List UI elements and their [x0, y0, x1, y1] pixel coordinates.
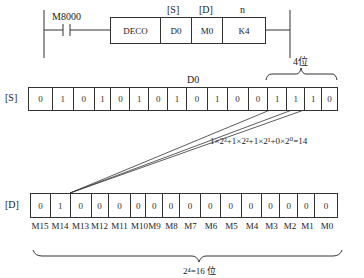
dest-bit-m2: 0 [280, 194, 298, 217]
operand-n-value: K4 [223, 18, 265, 43]
source-bit-10: 1 [130, 88, 149, 110]
sixteen-bit-label: 2⁴=16 位 [183, 265, 216, 277]
operand-d-value: M0 [192, 18, 223, 43]
map-line-3 [70, 110, 304, 193]
source-bit-0: 0 [322, 88, 337, 110]
dest-bit-m9: 0 [146, 194, 163, 217]
source-bit-13: 0 [74, 88, 95, 110]
source-register: D0 [187, 74, 199, 86]
bottom-brace [33, 250, 342, 262]
bit-name: M3 [262, 221, 281, 231]
dest-bit-m3: 0 [262, 194, 281, 217]
dest-bit-m5: 0 [221, 194, 242, 217]
contact-label: M8000 [52, 11, 81, 23]
bit-name: M0 [316, 221, 338, 231]
four-bit-label: 4位 [293, 56, 308, 68]
source-bit-2: 1 [287, 88, 305, 110]
source-bit-3: 1 [268, 88, 287, 110]
map-line-2 [70, 110, 292, 193]
source-bit-4: 0 [249, 88, 269, 110]
dest-bit-m11: 0 [109, 194, 132, 217]
dest-bit-m7: 0 [180, 194, 201, 217]
map-line-1 [70, 110, 270, 193]
source-bit-15: 0 [29, 88, 53, 110]
bit-name: M7 [180, 221, 201, 231]
source-bit-14: 1 [53, 88, 74, 110]
destination-bit-row: 0 1 0 0 0 0 0 0 0 0 0 0 0 0 0 0 [30, 193, 338, 218]
dest-bit-m14: 1 [51, 194, 71, 217]
deco-instruction-block: DECO D0 M0 K4 [110, 17, 266, 44]
bit-name: M2 [281, 221, 299, 231]
source-bit-8: 1 [168, 88, 187, 110]
decode-formula: 1×2³+1×2²+1×2¹+0×2⁰=14 [210, 135, 307, 147]
operand-header-s: [S] [167, 4, 179, 16]
bit-name: M6 [201, 221, 221, 231]
dest-bit-m4: 0 [242, 194, 262, 217]
bit-name: M5 [221, 221, 242, 231]
operand-header-d: [D] [199, 4, 213, 16]
source-bit-12: 1 [95, 88, 112, 110]
dest-bit-m0: 0 [315, 194, 337, 217]
source-label: [S] [5, 92, 17, 104]
dest-bit-m15: 0 [31, 194, 51, 217]
source-bit-row: 0 1 0 1 0 1 0 1 0 1 0 0 1 1 1 0 [28, 87, 338, 111]
bit-name: M4 [242, 221, 262, 231]
bit-name: M9 [146, 221, 163, 231]
destination-bit-names: M15 M14 M13 M12 M11 M10 M9 M8 M7 M6 M5 M… [30, 221, 340, 231]
source-bit-1: 1 [305, 88, 322, 110]
bit-name: M10 [131, 221, 146, 231]
bit-name: M13 [70, 221, 91, 231]
source-bit-11: 0 [111, 88, 130, 110]
bit-name: M14 [50, 221, 70, 231]
dest-bit-m6: 0 [201, 194, 221, 217]
operand-header-n: n [240, 4, 245, 16]
dest-bit-m10: 0 [131, 194, 146, 217]
operand-s-value: D0 [161, 18, 192, 43]
bit-name: M12 [91, 221, 108, 231]
dest-bit-m8: 0 [163, 194, 180, 217]
dest-bit-m1: 0 [298, 194, 315, 217]
bit-name: M15 [30, 221, 50, 231]
source-bit-6: 1 [208, 88, 228, 110]
bit-name: M1 [299, 221, 316, 231]
instruction-name: DECO [111, 18, 161, 43]
bit-name: M8 [163, 221, 180, 231]
bit-name: M11 [108, 221, 131, 231]
source-bit-9: 0 [149, 88, 168, 110]
source-bit-5: 0 [228, 88, 249, 110]
dest-bit-m13: 0 [71, 194, 92, 217]
destination-label: [D] [5, 199, 19, 211]
source-bit-7: 0 [187, 88, 208, 110]
top-brace [266, 68, 337, 80]
dest-bit-m12: 0 [92, 194, 109, 217]
